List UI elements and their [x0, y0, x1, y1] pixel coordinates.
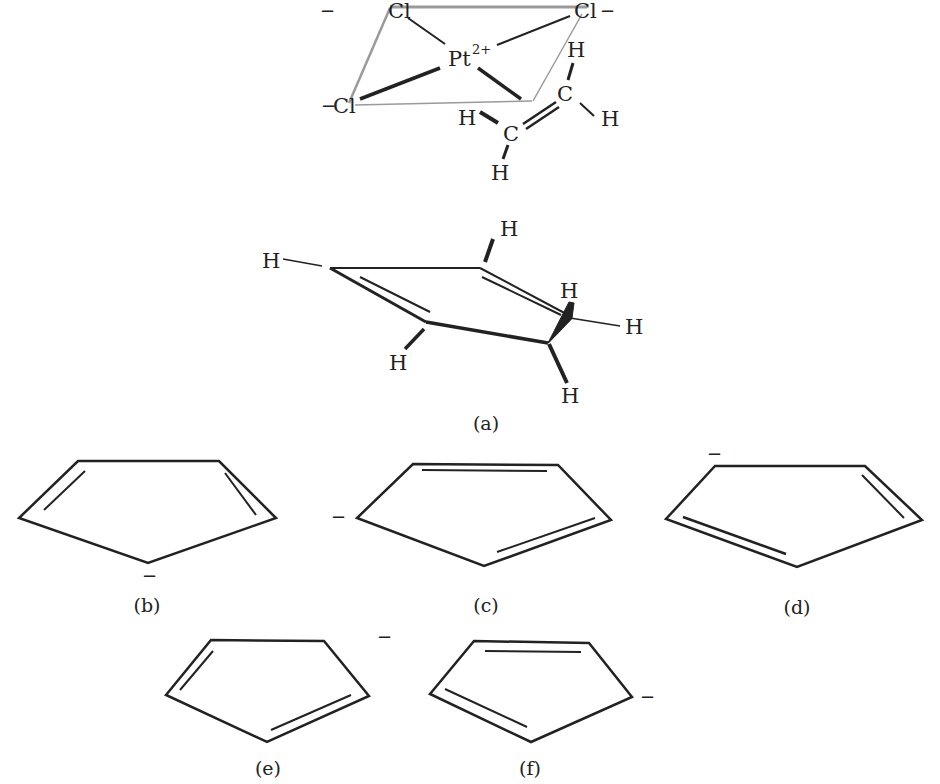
label-e: (e) — [255, 757, 281, 779]
hydrogen-atom: H — [262, 249, 280, 273]
negative-charge: − — [707, 443, 722, 464]
hydrogen-atom: H — [601, 107, 619, 131]
hydrogen-atom: H — [491, 161, 509, 185]
chloride-charge: − — [600, 0, 615, 21]
hydrogen-atom: H — [560, 279, 578, 303]
hydrogen-atom: H — [458, 106, 476, 130]
hydrogen-atom: H — [625, 315, 643, 339]
negative-charge: − — [331, 506, 346, 527]
negative-charge: − — [377, 626, 392, 647]
chloride-charge: − — [320, 0, 335, 21]
platinum-atom: Pt — [448, 47, 471, 71]
platinum-complex: − Cl Cl − − Cl Pt 2+ C C H H H H — [320, 0, 619, 185]
hydrogen-atom: H — [500, 217, 518, 241]
carbon-atom: C — [503, 122, 519, 146]
hydrogen-atom: H — [561, 384, 579, 408]
ring-bonds — [283, 239, 620, 383]
resonance-structure-b: − (b) — [19, 461, 276, 616]
resonance-structure-d: − (d) — [666, 443, 922, 618]
label-c: (c) — [473, 594, 498, 616]
label-b: (b) — [134, 594, 161, 616]
label-f: (f) — [519, 757, 541, 779]
negative-charge: − — [142, 565, 157, 586]
chlorine-atom: Cl — [333, 94, 356, 118]
platinum-charge: 2+ — [472, 42, 491, 57]
chemistry-figure: − Cl Cl − − Cl Pt 2+ C C H H H H — [0, 0, 940, 784]
resonance-structure-f: − (f) — [430, 641, 655, 779]
resonance-structure-e: − (e) — [166, 626, 392, 779]
negative-charge: − — [640, 686, 655, 707]
resonance-structure-c: − (c) — [331, 464, 611, 616]
cyclopentadiene-molecule: H H H H H H (a) — [262, 217, 643, 434]
label-d: (d) — [784, 596, 811, 618]
hydrogen-atom: H — [567, 38, 585, 62]
chlorine-atom: Cl — [574, 0, 597, 23]
hydrogen-atom: H — [389, 351, 407, 375]
label-a: (a) — [473, 412, 499, 434]
carbon-atom: C — [557, 82, 573, 106]
chlorine-atom: Cl — [388, 0, 411, 23]
